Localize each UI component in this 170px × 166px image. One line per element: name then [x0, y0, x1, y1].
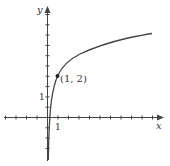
y-axis-label: y — [36, 4, 43, 15]
function-curve — [48, 34, 152, 161]
point-marker — [56, 74, 60, 78]
y-axis-arrow-icon — [45, 6, 51, 13]
y-axis — [45, 6, 51, 161]
x-tick-label-1: 1 — [55, 122, 61, 132]
function-graph: (1, 2) x y 1 1 — [0, 0, 170, 166]
x-axis-label: x — [156, 120, 162, 131]
x-axis — [4, 115, 164, 121]
point-label: (1, 2) — [60, 73, 87, 84]
y-tick-label-1: 1 — [39, 92, 45, 102]
